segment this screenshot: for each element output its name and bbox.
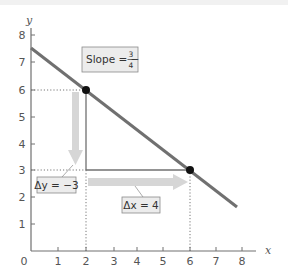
- slope-chart: 8 7 6 5 4 3 2 1 0 1 2 3 4 5 6 7 8 y x Sl…: [0, 0, 288, 276]
- svg-text:4: 4: [129, 61, 134, 70]
- x-tick-label: 5: [160, 255, 167, 268]
- y-tick-label: 2: [19, 191, 26, 204]
- slope-label: Slope = − 3 4: [82, 47, 139, 72]
- y-tick-label: 8: [19, 29, 26, 42]
- svg-text:Δy = −3: Δy = −3: [34, 179, 78, 191]
- y-axis-label: y: [25, 14, 33, 27]
- x-tick-label: 1: [55, 255, 62, 268]
- y-tick-label: 3: [19, 164, 26, 177]
- x-tick-label: 3: [111, 255, 118, 268]
- delta-x-label: Δx = 4: [122, 186, 160, 213]
- delta-x-arrow: [88, 174, 188, 190]
- svg-text:3: 3: [129, 50, 134, 59]
- y-tick-label: 5: [19, 111, 26, 124]
- x-axis-label: x: [265, 244, 272, 257]
- y-tick-label: 7: [19, 56, 26, 69]
- x-tick-label: 6: [187, 255, 194, 268]
- x-tick-label: 4: [134, 255, 141, 268]
- x-tick-label: 0: [21, 255, 28, 268]
- delta-y-arrow: [68, 92, 83, 165]
- x-tick-label: 7: [213, 255, 220, 268]
- delta-y-label: Δy = −3: [34, 165, 78, 193]
- point-2-6: [82, 86, 90, 94]
- point-6-3: [186, 166, 194, 174]
- x-tick-label: 8: [239, 255, 246, 268]
- svg-text:Δx = 4: Δx = 4: [123, 199, 159, 211]
- y-tick-label: 6: [19, 84, 26, 97]
- y-tick-label: 4: [19, 138, 26, 151]
- x-tick-label: 2: [83, 255, 90, 268]
- y-tick-label: 1: [19, 218, 26, 231]
